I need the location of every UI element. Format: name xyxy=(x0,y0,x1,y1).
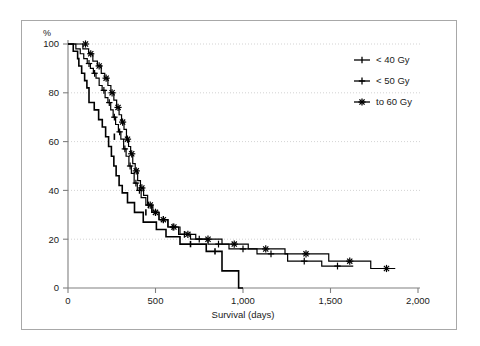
y-tick-label-40: 40 xyxy=(48,185,59,196)
series-censor-marks-1 xyxy=(86,60,341,269)
y-tick-label-0: 0 xyxy=(54,282,59,293)
y-tick-group: 020406080100 xyxy=(43,38,68,293)
x-tick-label-500: 500 xyxy=(148,295,164,306)
x-tick-label-1500: 1,500 xyxy=(319,295,343,306)
legend-item-0[interactable]: < 40 Gy xyxy=(354,54,410,65)
curves-group xyxy=(68,44,395,288)
y-tick-label-60: 60 xyxy=(48,136,59,147)
x-tick-label-1000: 1,000 xyxy=(231,295,255,306)
x-axis-title: Survival (days) xyxy=(212,309,275,320)
series-line-2 xyxy=(68,44,395,268)
y-axis-title: % xyxy=(43,28,51,38)
figure-container: 05001,0001,5002,000 020406080100 Surviva… xyxy=(0,0,480,346)
legend-item-2[interactable]: to 60 Gy xyxy=(354,96,412,107)
survival-chart: 05001,0001,5002,000 020406080100 Surviva… xyxy=(0,0,480,346)
series-line-0 xyxy=(68,44,243,288)
x-tick-group: 05001,0001,5002,000 xyxy=(65,288,430,306)
legend: < 40 Gy< 50 Gyto 60 Gy xyxy=(354,54,412,107)
gridlines-group xyxy=(68,44,420,239)
y-tick-label-100: 100 xyxy=(43,38,59,49)
x-tick-label-2000: 2,000 xyxy=(406,295,430,306)
legend-label-0: < 40 Gy xyxy=(376,54,410,65)
legend-label-1: < 50 Gy xyxy=(376,75,410,86)
legend-item-1[interactable]: < 50 Gy xyxy=(354,75,410,86)
y-tick-label-80: 80 xyxy=(48,87,59,98)
y-tick-label-20: 20 xyxy=(48,234,59,245)
axes-group xyxy=(68,40,420,288)
legend-label-2: to 60 Gy xyxy=(376,96,412,107)
legend-marker-star-icon xyxy=(358,98,365,105)
x-tick-label-0: 0 xyxy=(65,295,70,306)
legend-marker-plus-icon xyxy=(359,78,365,85)
